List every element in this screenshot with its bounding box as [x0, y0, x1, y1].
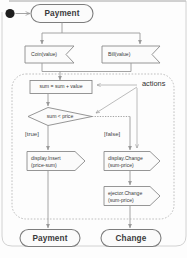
- signal-receipt-bill[interactable]: [102, 46, 160, 63]
- diagram-canvas: [0, 0, 187, 258]
- initial-state-dot: [5, 9, 14, 18]
- signal-send-ejector-change[interactable]: [104, 187, 160, 206]
- action-box-sum-assign[interactable]: [30, 81, 92, 94]
- uml-activity-diagram: Payment Coin(value) Bill(value) sum = su…: [0, 0, 187, 258]
- transition-signals-to-sum: [42, 63, 131, 80]
- decision-sum-lt-price[interactable]: [28, 108, 92, 126]
- composite-state-border: [2, 1, 186, 246]
- signal-receipt-coin[interactable]: [25, 46, 74, 63]
- state-change-bottom[interactable]: [101, 230, 161, 247]
- signal-send-display-change[interactable]: [104, 152, 160, 171]
- state-payment-bottom[interactable]: [20, 230, 80, 247]
- transition-payment-to-signals: [42, 23, 140, 45]
- signal-send-display-insert[interactable]: [27, 152, 85, 171]
- state-payment-top[interactable]: [31, 5, 93, 23]
- transition-false-branch: [92, 117, 130, 151]
